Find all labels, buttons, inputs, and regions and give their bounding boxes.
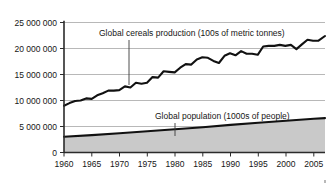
y-tick-label-0: 0 bbox=[52, 148, 57, 158]
x-tick-label-1965: 1965 bbox=[82, 159, 101, 169]
x-tick-label-1975: 1975 bbox=[138, 159, 157, 169]
y-tick-label-5000000: 5 000 000 bbox=[19, 122, 57, 132]
x-tick-label-1995: 1995 bbox=[249, 159, 268, 169]
x-tick-label-1990: 1990 bbox=[221, 159, 240, 169]
y-tick-label-15000000: 15 000 000 bbox=[14, 70, 57, 80]
x-tick-label-2005: 2005 bbox=[304, 159, 323, 169]
population-annotation-label: Global population (1000s of people) bbox=[155, 111, 290, 121]
y-tick-label-20000000: 20 000 000 bbox=[14, 44, 57, 54]
x-tick-label-2000: 2000 bbox=[277, 159, 296, 169]
x-tick-label-1985: 1985 bbox=[193, 159, 212, 169]
x-tick-label-1980: 1980 bbox=[166, 159, 185, 169]
y-tick-label-10000000: 10 000 000 bbox=[14, 96, 57, 106]
x-tick-label-1960: 1960 bbox=[55, 159, 74, 169]
cereals-and-population-chart: 25 000 000 20 000 000 15 000 000 10 000 … bbox=[0, 0, 333, 190]
corner-speck-mark bbox=[324, 180, 326, 183]
cereals-annotation-label: Global cereals production (100s of metri… bbox=[99, 28, 285, 38]
x-tick-label-1970: 1970 bbox=[110, 159, 129, 169]
chart-container: 25 000 000 20 000 000 15 000 000 10 000 … bbox=[0, 0, 333, 190]
y-tick-label-25000000: 25 000 000 bbox=[14, 18, 57, 28]
